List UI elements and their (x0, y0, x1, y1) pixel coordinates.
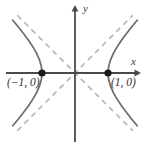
y-axis-label: y (83, 3, 88, 14)
right-vertex-label: (1, 0) (111, 77, 136, 89)
y-axis-arrowhead (72, 5, 79, 12)
hyperbola-figure: x y (−1, 0) (1, 0) (0, 0, 149, 144)
x-axis-label: x (131, 56, 136, 67)
left-vertex-label: (−1, 0) (7, 77, 40, 89)
hyperbola-plot (0, 0, 149, 144)
